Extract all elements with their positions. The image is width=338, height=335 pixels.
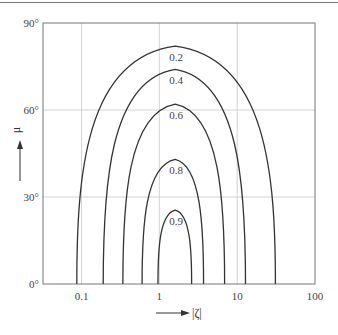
y-axis-arrow-head <box>17 140 23 149</box>
y-tick-label: 0° <box>29 278 39 290</box>
contour-curve-0.6 <box>123 104 225 284</box>
x-axis-label-group: |ζ| <box>156 306 202 320</box>
x-tick-label: 0.1 <box>75 290 89 302</box>
contour-label: 0.6 <box>169 109 183 121</box>
x-axis-ticks: 0.1110100 <box>75 290 324 302</box>
x-axis-arrow-head <box>181 310 190 316</box>
x-tick-label: 10 <box>232 290 244 302</box>
contour-label: 0.2 <box>169 51 183 63</box>
y-axis-ticks: 0°30°60°90° <box>24 17 39 290</box>
y-axis-label: μ <box>9 127 23 133</box>
x-tick-label: 100 <box>307 290 324 302</box>
curve-labels: 0.20.40.60.80.9 <box>169 51 183 227</box>
y-axis-label-group: μ <box>9 127 23 181</box>
contour-label: 0.8 <box>169 164 183 176</box>
x-tick-label: 1 <box>157 290 163 302</box>
contour-label: 0.9 <box>169 215 183 227</box>
y-tick-label: 90° <box>24 17 39 29</box>
x-axis-label: |ζ| <box>192 306 202 320</box>
contour-label: 0.4 <box>169 74 183 86</box>
contour-chart: 0.20.40.60.80.9 0.1110100 0°30°60°90° μ … <box>0 0 338 335</box>
y-tick-label: 30° <box>24 191 39 203</box>
y-tick-label: 60° <box>24 104 39 116</box>
